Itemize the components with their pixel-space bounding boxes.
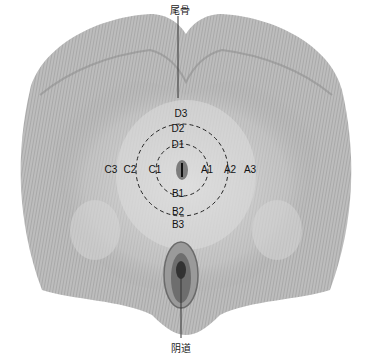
- marker-d1: D1: [172, 140, 185, 150]
- marker-c3: C3: [105, 165, 118, 175]
- marker-a1: A1: [201, 165, 213, 175]
- marker-d3: D3: [175, 109, 188, 119]
- marker-d2: D2: [172, 124, 185, 134]
- marker-b3: B3: [172, 220, 184, 230]
- vagina-label: 阴道: [171, 340, 191, 355]
- marker-b2: B2: [172, 207, 184, 217]
- marker-a2: A2: [224, 165, 236, 175]
- coccyx-label: 尾骨: [170, 2, 190, 17]
- marker-b1: B1: [172, 189, 184, 199]
- marker-c1: C1: [149, 165, 162, 175]
- perineum-diagram: 尾骨 阴道 D3 D2 D1 C3 C2 C1 A1 A2 A3 B1 B2 B…: [0, 0, 372, 360]
- anatomy-illustration: [0, 0, 372, 360]
- marker-c2: C2: [124, 165, 137, 175]
- marker-a3: A3: [244, 165, 256, 175]
